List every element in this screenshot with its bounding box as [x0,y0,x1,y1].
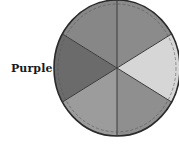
purple-label: Purple [11,62,53,75]
